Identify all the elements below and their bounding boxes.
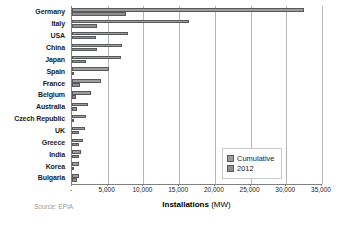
bar-y2012 — [72, 131, 79, 134]
x-tick-label: 15,000 — [168, 186, 188, 193]
source-note: Source: EPIA — [34, 203, 73, 210]
bar-cumulative — [72, 56, 121, 59]
x-tick-label: - — [70, 186, 72, 193]
category-label: Germany — [0, 6, 68, 18]
category-label: Czech Republic — [0, 113, 68, 125]
x-axis-title-main: Installations — [162, 200, 209, 209]
x-tick-label: 35,000 — [311, 186, 331, 193]
bar-row — [72, 42, 322, 54]
category-label: Italy — [0, 18, 68, 30]
bar-y2012 — [72, 107, 77, 110]
x-tick-mark — [71, 184, 72, 186]
x-tick-label: 25,000 — [240, 186, 260, 193]
x-axis-title-unit: (MW) — [211, 200, 231, 209]
bar-cumulative — [72, 115, 86, 118]
bar-row — [72, 136, 322, 148]
bar-row — [72, 160, 322, 172]
bar-y2012 — [72, 12, 126, 15]
x-tick-label: 20,000 — [204, 186, 224, 193]
legend-item[interactable]: 2012 — [227, 164, 275, 173]
bar-row — [72, 89, 322, 101]
category-label: France — [0, 77, 68, 89]
x-tick-mark — [178, 184, 179, 186]
x-tick-mark — [321, 184, 322, 186]
category-label: UK — [0, 125, 68, 137]
x-tick-mark — [285, 184, 286, 186]
bar-y2012 — [72, 60, 86, 63]
x-axis-title: Installations (MW) — [71, 200, 322, 209]
bar-y2012 — [72, 95, 76, 98]
x-tick-mark — [214, 184, 215, 186]
bar-row — [72, 125, 322, 137]
bar-row — [72, 172, 322, 184]
bar-cumulative — [72, 20, 189, 23]
bar-y2012 — [72, 24, 97, 27]
bar-cumulative — [72, 8, 304, 11]
x-tick-mark — [142, 184, 143, 186]
gridline — [322, 6, 323, 184]
category-label: Belgium — [0, 89, 68, 101]
bar-row — [72, 101, 322, 113]
bar-cumulative — [72, 32, 128, 35]
bar-y2012 — [72, 48, 97, 51]
bar-row — [72, 77, 322, 89]
bar-cumulative — [72, 174, 79, 177]
legend-swatch-icon — [227, 155, 234, 162]
bar-y2012 — [72, 72, 74, 75]
x-tick-label: 30,000 — [275, 186, 295, 193]
bar-cumulative — [72, 162, 79, 165]
x-tick-mark — [107, 184, 108, 186]
legend-swatch-icon — [227, 165, 234, 172]
bar-cumulative — [72, 139, 83, 142]
legend-label: 2012 — [237, 164, 254, 173]
category-label: USA — [0, 30, 68, 42]
bar-y2012 — [72, 155, 79, 158]
legend: Cumulative2012 — [222, 148, 282, 179]
x-axis-tick-labels: -5,00010,00015,00020,00025,00030,00035,0… — [0, 186, 341, 198]
x-tick-mark — [250, 184, 251, 186]
bar-cumulative — [72, 103, 88, 106]
bar-cumulative — [72, 150, 81, 153]
bar-cumulative — [72, 44, 122, 47]
plot-area — [71, 6, 322, 184]
category-label: Bulgaria — [0, 172, 68, 184]
legend-label: Cumulative — [237, 154, 275, 163]
bar-cumulative — [72, 127, 85, 130]
category-label: Australia — [0, 101, 68, 113]
bar-row — [72, 18, 322, 30]
category-label: Japan — [0, 53, 68, 65]
bar-y2012 — [72, 119, 74, 122]
bar-row — [72, 6, 322, 18]
category-label: Greece — [0, 136, 68, 148]
bar-y2012 — [72, 83, 80, 86]
bar-cumulative — [72, 91, 91, 94]
bar-rows — [72, 6, 322, 184]
bar-cumulative — [72, 67, 109, 70]
bar-y2012 — [72, 143, 79, 146]
category-label: China — [0, 42, 68, 54]
x-tick-label: 5,000 — [99, 186, 115, 193]
bar-y2012 — [72, 167, 74, 170]
legend-item[interactable]: Cumulative — [227, 154, 275, 163]
bar-row — [72, 148, 322, 160]
bar-y2012 — [72, 36, 96, 39]
category-label: Spain — [0, 65, 68, 77]
bar-row — [72, 113, 322, 125]
bar-cumulative — [72, 79, 101, 82]
category-label: India — [0, 148, 68, 160]
bar-row — [72, 65, 322, 77]
category-label: Korea — [0, 160, 68, 172]
category-axis: GermanyItalyUSAChinaJapanSpainFranceBelg… — [0, 6, 68, 184]
bar-y2012 — [72, 178, 77, 181]
bar-row — [72, 30, 322, 42]
bar-row — [72, 53, 322, 65]
solar-installations-bar-chart: GermanyItalyUSAChinaJapanSpainFranceBelg… — [0, 0, 341, 226]
x-tick-label: 10,000 — [132, 186, 152, 193]
